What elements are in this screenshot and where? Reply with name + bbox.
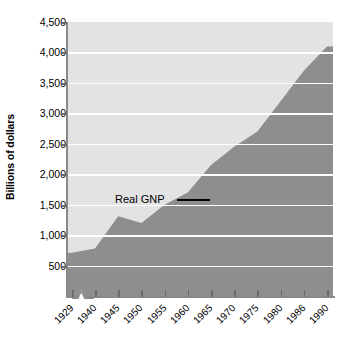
- y-axis-tick-label: 500: [22, 261, 66, 271]
- x-axis-tick-mark: [327, 290, 329, 297]
- real-gnp-area-series: [68, 22, 333, 296]
- y-axis-tick-mark: [62, 52, 67, 54]
- y-axis-tick-mark: [62, 266, 67, 268]
- x-axis-tick-label: 1990: [307, 302, 331, 326]
- y-axis-title: Billions of dollars: [2, 62, 18, 252]
- x-axis-tick-mark: [141, 290, 143, 297]
- gridline: [68, 235, 333, 237]
- y-axis-tick-label: 4,000: [22, 47, 66, 57]
- real-gnp-area-chart: Billions of dollars 5001,0001,5002,0002,…: [0, 0, 350, 351]
- x-axis-tick-label: 1950: [121, 302, 145, 326]
- gridline: [68, 52, 333, 54]
- y-axis-tick-mark: [62, 83, 67, 85]
- gridline: [68, 113, 333, 115]
- gridline: [68, 83, 333, 85]
- y-axis-tick-label: 1,500: [22, 200, 66, 210]
- y-axis-title-label: Billions of dollars: [4, 114, 16, 200]
- x-axis-tick-mark: [234, 290, 236, 297]
- series-annotation-label: Real GNP: [115, 193, 165, 205]
- gridline: [68, 266, 333, 268]
- x-axis-tick-label: 1986: [284, 302, 308, 326]
- x-axis-tick-label: 1945: [98, 302, 122, 326]
- gridline: [68, 174, 333, 176]
- x-axis-tick-mark: [118, 290, 120, 297]
- x-axis-tick-label: 1929: [52, 302, 76, 326]
- x-axis-tick-mark: [257, 290, 259, 297]
- x-axis-tick-label: 1970: [214, 302, 238, 326]
- y-axis-tick-label: 2,000: [22, 169, 66, 179]
- y-axis-tick-mark: [62, 113, 67, 115]
- y-axis-tick-mark: [62, 235, 67, 237]
- x-axis-tick-mark: [95, 290, 97, 297]
- x-axis-tick-label: 1965: [191, 302, 215, 326]
- x-axis-tick-mark: [304, 290, 306, 297]
- plot-area: [68, 22, 333, 296]
- x-axis-tick-label: 1955: [145, 302, 169, 326]
- x-axis-tick-label: 1940: [75, 302, 99, 326]
- y-axis-tick-mark: [62, 174, 67, 176]
- x-axis-tick-labels: 1929194019451950195519601965197019751980…: [0, 296, 350, 351]
- x-axis-tick-label: 1960: [168, 302, 192, 326]
- x-axis-tick-mark: [211, 290, 213, 297]
- series-annotation-leader-line: [177, 199, 210, 201]
- y-axis-tick-mark: [62, 205, 67, 207]
- y-axis-tick-mark: [62, 144, 67, 146]
- y-axis-tick-label: 2,500: [22, 139, 66, 149]
- x-axis-tick-label: 1975: [237, 302, 261, 326]
- y-axis-tick-label: 3,000: [22, 108, 66, 118]
- gridline: [68, 205, 333, 207]
- y-axis-tick-label: 4,500: [22, 17, 66, 27]
- y-axis-tick-label: 1,000: [22, 230, 66, 240]
- x-axis-tick-mark: [165, 290, 167, 297]
- gridline: [68, 144, 333, 146]
- x-axis-tick-mark: [72, 290, 74, 297]
- x-axis-tick-mark: [188, 290, 190, 297]
- y-axis-tick-label: 3,500: [22, 78, 66, 88]
- x-axis-tick-mark: [281, 290, 283, 297]
- y-axis-tick-mark: [62, 22, 67, 24]
- x-axis-tick-label: 1980: [261, 302, 285, 326]
